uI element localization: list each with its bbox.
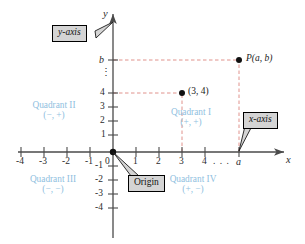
x-tick-label-4: 4 — [202, 157, 207, 167]
quadrant-2-signs: (−, +) — [15, 111, 93, 120]
y-tick-label--3: -3 — [95, 189, 103, 199]
y-tick-label-b: b — [99, 55, 104, 65]
y-tick-label-4: 4 — [100, 88, 105, 98]
y-tick-label--2: -2 — [95, 175, 103, 185]
point-label-p-a-b: P(a, b) — [246, 54, 272, 64]
x-tick-label-3: 3 — [179, 157, 184, 167]
quadrant-1-signs: (+, +) — [155, 118, 227, 127]
quadrant-3-signs: (−, −) — [12, 185, 94, 194]
x-tick-label--4: -4 — [16, 157, 24, 167]
quadrant-3-name: Quadrant III — [30, 174, 76, 184]
axis-arrowheads — [109, 14, 284, 156]
point-p-a-b — [236, 57, 242, 63]
y-axis-callout-tail — [95, 22, 113, 38]
callout-leaders — [95, 22, 252, 176]
x-tick-label--1: -1 — [85, 157, 93, 167]
y-axis-letter: y — [103, 9, 108, 20]
x-axis-ellipsis: . . . — [213, 157, 230, 167]
coordinate-plane-figure: -4 -3 -2 -1 0 1 2 3 4 . . . a b ⋮ 4 3 2 … — [0, 0, 305, 244]
callout-origin: Origin — [128, 175, 165, 192]
quadrant-4-name: Quadrant IV — [170, 174, 217, 184]
point-3-4 — [179, 90, 185, 96]
y-tick-label-2: 2 — [100, 116, 105, 126]
x-tick-label-a: a — [236, 157, 241, 167]
quadrant-2-name: Quadrant II — [32, 100, 75, 110]
y-tick-label-1: 1 — [101, 130, 106, 140]
x-tick-label-1: 1 — [133, 157, 138, 167]
x-tick-label--3: -3 — [39, 157, 47, 167]
point-label-3-4: (3, 4) — [188, 87, 209, 97]
quadrant-label-3: Quadrant III (−, −) — [12, 175, 94, 195]
origin-tick-label: 0 — [105, 157, 110, 167]
y-tick-label--4: -4 — [95, 203, 103, 213]
dashed-guide-lines — [113, 60, 239, 152]
callout-y-axis: y-axis — [52, 25, 87, 42]
y-axis-vertical-dots: ⋮ — [101, 68, 111, 78]
callout-x-axis: x-axis — [243, 112, 278, 129]
x-tick-label-2: 2 — [156, 157, 161, 167]
quadrant-label-2: Quadrant II (−, +) — [15, 101, 93, 121]
y-tick-label--1: -1 — [95, 161, 103, 171]
y-tick-label-3: 3 — [100, 102, 105, 112]
x-tick-label--2: -2 — [62, 157, 70, 167]
quadrant-label-1: Quadrant I (+, +) — [155, 108, 227, 128]
quadrant-label-4: Quadrant IV (+, −) — [155, 175, 231, 195]
quadrant-1-name: Quadrant I — [171, 107, 211, 117]
x-axis-letter: x — [286, 155, 291, 166]
x-axis-callout-tail — [239, 126, 252, 151]
quadrant-4-signs: (+, −) — [155, 185, 231, 194]
